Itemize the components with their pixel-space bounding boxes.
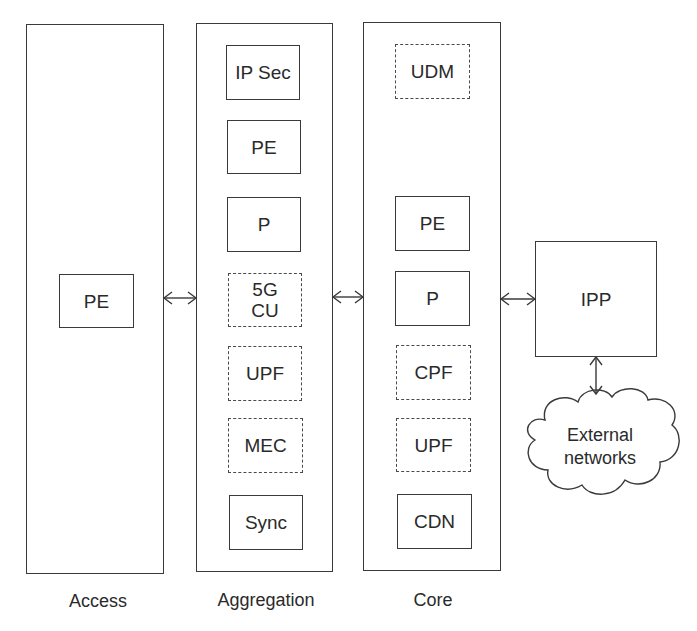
agg-sync-node: Sync — [229, 495, 303, 550]
agg-p-node: P — [227, 197, 301, 252]
core-udm-node: UDM — [395, 44, 470, 99]
bidirectional-arrow-icon — [333, 291, 363, 303]
core-cpf-node: CPF — [396, 345, 471, 400]
core-p-node: P — [395, 271, 470, 326]
core-cdn-node: CDN — [397, 494, 472, 549]
agg-5gcu-node: 5G CU — [228, 273, 302, 327]
external-networks-label: External networks — [540, 424, 660, 470]
ipp-node: IPP — [535, 241, 657, 357]
agg-ipsec-node: IP Sec — [226, 45, 300, 100]
agg-upf-node: UPF — [228, 346, 302, 401]
agg-pe-node: PE — [227, 120, 301, 174]
access-label: Access — [18, 591, 178, 612]
agg-mec-node: MEC — [228, 418, 303, 473]
aggregation-label: Aggregation — [186, 590, 346, 611]
bidirectional-arrow-icon — [590, 357, 602, 394]
access-pe-node: PE — [59, 274, 134, 328]
core-label: Core — [353, 590, 513, 611]
bidirectional-arrow-icon — [164, 292, 196, 304]
core-upf-node: UPF — [396, 418, 471, 472]
bidirectional-arrow-icon — [501, 293, 535, 305]
core-pe-node: PE — [395, 196, 470, 251]
